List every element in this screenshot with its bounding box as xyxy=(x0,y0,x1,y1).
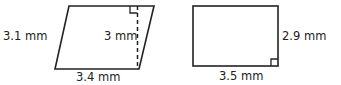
parallelogram-base-label: 3.4 mm xyxy=(76,70,120,84)
geometry-diagram: 3.1 mm 3 mm 3.4 mm 2.9 mm 3.5 mm xyxy=(0,0,341,85)
right-angle-marker xyxy=(130,6,138,13)
parallelogram: 3.1 mm 3 mm 3.4 mm xyxy=(3,6,154,84)
rectangle-side-label: 2.9 mm xyxy=(282,29,326,43)
parallelogram-side-label: 3.1 mm xyxy=(3,29,47,43)
rectangle-base-label: 3.5 mm xyxy=(219,69,263,83)
parallelogram-height-label: 3 mm xyxy=(104,29,137,43)
diagram-svg: 3.1 mm 3 mm 3.4 mm 2.9 mm 3.5 mm xyxy=(0,0,341,85)
rectangle: 2.9 mm 3.5 mm xyxy=(193,6,326,83)
right-angle-marker xyxy=(271,59,278,66)
